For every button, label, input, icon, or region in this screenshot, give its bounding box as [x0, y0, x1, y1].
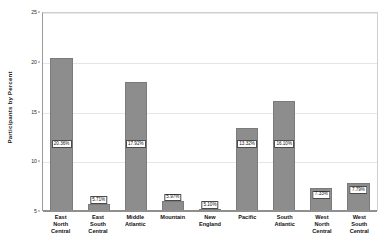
bar-value-label: 7.33%: [313, 191, 330, 199]
bar-slot: 13.32%: [229, 13, 266, 211]
bar-slot: 5.10%: [191, 13, 228, 211]
x-tick-label: Mountain: [154, 214, 191, 252]
x-tick-label-line: Central: [80, 228, 115, 235]
x-tick-label-line: South: [267, 214, 302, 221]
y-tick-mark: [38, 211, 40, 212]
x-tick-label-line: England: [192, 221, 227, 228]
y-tick-label: 5: [34, 208, 37, 214]
y-axis-tick-labels: 510152025: [18, 12, 40, 211]
y-axis-title-label: Participants by Percent: [6, 71, 13, 143]
bar[interactable]: 17.92%: [125, 82, 147, 211]
y-tick-mark: [38, 111, 40, 112]
x-tick-label-line: Middle: [118, 214, 153, 221]
bar-slot: 16.10%: [266, 13, 303, 211]
x-tick-label: NewEngland: [191, 214, 228, 252]
x-tick-label-line: Central: [43, 228, 78, 235]
x-tick-label: EastNorthCentral: [42, 214, 79, 252]
bar[interactable]: 16.10%: [273, 101, 295, 211]
plot-area: 20.36%5.71%17.92%5.97%5.10%13.32%16.10%7…: [42, 12, 378, 211]
x-tick-label: EastSouthCentral: [79, 214, 116, 252]
y-tick-label: 10: [31, 158, 37, 164]
x-tick-label: SouthAtlantic: [266, 214, 303, 252]
x-tick-label: WestNorthCentral: [303, 214, 340, 252]
y-tick-mark: [38, 161, 40, 162]
bar[interactable]: 20.36%: [50, 58, 72, 211]
bar[interactable]: 7.79%: [347, 183, 369, 211]
x-tick-label: MiddleAtlantic: [117, 214, 154, 252]
x-tick-label-line: South: [342, 221, 377, 228]
bar-slot: 5.71%: [80, 13, 117, 211]
bar-slot: 17.92%: [117, 13, 154, 211]
y-tick-label: 25: [31, 9, 37, 15]
bar-slot: 7.33%: [303, 13, 340, 211]
x-tick-label-line: New: [192, 214, 227, 221]
x-tick-label-line: South: [80, 221, 115, 228]
bar-value-label: 16.10%: [274, 140, 294, 148]
bar[interactable]: 7.33%: [310, 188, 332, 211]
x-tick-label-line: Central: [342, 228, 377, 235]
bar-value-label: 5.71%: [90, 196, 107, 204]
bar-chart: Participants by Percent 510152025 20.36%…: [0, 0, 390, 252]
x-tick-label-line: Pacific: [230, 214, 265, 221]
bar-value-label: 7.79%: [350, 186, 367, 194]
y-tick-mark: [38, 61, 40, 62]
x-tick-label-line: North: [43, 221, 78, 228]
bar[interactable]: 13.32%: [236, 128, 258, 211]
x-tick-label-line: Central: [304, 228, 339, 235]
bar-slot: 20.36%: [43, 13, 80, 211]
x-tick-label: WestSouthCentral: [341, 214, 378, 252]
bar-value-label: 20.36%: [52, 140, 72, 148]
y-axis-title: Participants by Percent: [0, 0, 18, 215]
bar-slot: 5.97%: [154, 13, 191, 211]
x-tick-label-line: North: [304, 221, 339, 228]
y-tick-label: 15: [31, 109, 37, 115]
bar-value-label: 17.92%: [126, 140, 146, 148]
x-tick-label-line: Atlantic: [267, 221, 302, 228]
bar-value-label: 13.32%: [237, 140, 257, 148]
x-tick-label-line: Mountain: [155, 214, 190, 221]
x-tick-label-line: West: [304, 214, 339, 221]
bar-slot: 7.79%: [340, 13, 377, 211]
x-axis-tick-labels: EastNorthCentralEastSouthCentralMiddleAt…: [42, 214, 378, 252]
x-tick-label-line: Atlantic: [118, 221, 153, 228]
x-tick-label: Pacific: [229, 214, 266, 252]
x-axis-baseline: [43, 210, 377, 212]
x-tick-label-line: East: [80, 214, 115, 221]
bar-value-label: 5.10%: [201, 201, 218, 209]
bar-value-label: 5.97%: [164, 194, 181, 202]
x-tick-label-line: West: [342, 214, 377, 221]
bars-layer: 20.36%5.71%17.92%5.97%5.10%13.32%16.10%7…: [43, 13, 377, 211]
x-tick-label-line: East: [43, 214, 78, 221]
y-tick-label: 20: [31, 59, 37, 65]
y-tick-mark: [38, 12, 40, 13]
